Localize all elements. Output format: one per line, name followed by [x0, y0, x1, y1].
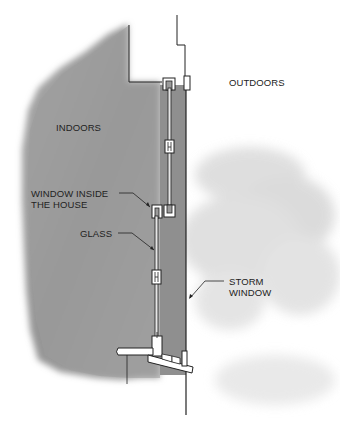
upper-h-connector — [165, 140, 174, 153]
air-gap — [160, 85, 186, 375]
storm-window-label-line2: WINDOW — [229, 287, 271, 298]
glass-label: GLASS — [80, 228, 112, 239]
indoors-label: INDOORS — [56, 122, 101, 133]
window-inside-label-line2: THE HOUSE — [31, 199, 87, 210]
storm-window-top-frame — [184, 76, 190, 90]
storm-window-diagram — [0, 0, 340, 434]
window-inside-label-line1: WINDOW INSIDE — [31, 188, 108, 199]
outdoors-label: OUTDOORS — [229, 77, 285, 88]
storm-window-label-line1: STORM — [229, 276, 264, 287]
wall-top-outline — [129, 25, 162, 82]
lower-h-connector — [152, 270, 161, 284]
exterior-wall-line — [177, 15, 185, 78]
